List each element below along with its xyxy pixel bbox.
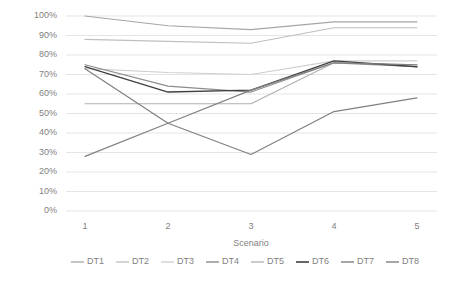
y-axis-tick-label: 10% — [39, 186, 57, 196]
gridlines — [66, 16, 437, 211]
x-axis-title: Scenario — [233, 238, 269, 248]
y-axis-tick-label: 90% — [39, 30, 57, 40]
chart-canvas: 0%10%20%30%40%50%60%70%80%90%100% 12345 … — [0, 0, 476, 282]
y-axis-tick-label: 60% — [39, 88, 57, 98]
series-line-dt5 — [85, 63, 417, 104]
y-axis-tick-label: 80% — [39, 49, 57, 59]
y-axis-tick-label: 70% — [39, 69, 57, 79]
legend-label-dt2: DT2 — [132, 256, 149, 266]
series-line-dt4 — [85, 63, 417, 92]
y-axis-tick-label: 40% — [39, 127, 57, 137]
legend-label-dt5: DT5 — [267, 256, 284, 266]
legend-label-dt4: DT4 — [222, 256, 239, 266]
x-axis-tick-label: 4 — [331, 221, 336, 231]
y-axis-tick-label: 100% — [34, 10, 57, 20]
x-axis-tick-label: 3 — [248, 221, 253, 231]
y-axis-tick-label: 20% — [39, 166, 57, 176]
legend-label-dt3: DT3 — [177, 256, 194, 266]
legend-label-dt8: DT8 — [402, 256, 419, 266]
line-chart: 0%10%20%30%40%50%60%70%80%90%100% 12345 … — [0, 0, 476, 282]
y-axis-tick-label: 0% — [44, 205, 57, 215]
y-axis-tick-labels: 0%10%20%30%40%50%60%70%80%90%100% — [34, 10, 57, 215]
x-axis-tick-label: 2 — [165, 221, 170, 231]
y-axis-tick-label: 50% — [39, 108, 57, 118]
legend-label-dt1: DT1 — [87, 256, 104, 266]
legend-label-dt6: DT6 — [312, 256, 329, 266]
y-axis-tick-label: 30% — [39, 147, 57, 157]
x-axis-tick-label: 5 — [414, 221, 419, 231]
chart-legend: DT1DT2DT3DT4DT5DT6DT7DT8 — [71, 256, 419, 266]
x-axis-tick-label: 1 — [82, 221, 87, 231]
series-line-dt8 — [85, 63, 417, 157]
series-line-dt6 — [85, 61, 417, 92]
legend-label-dt7: DT7 — [357, 256, 374, 266]
x-axis-tick-labels: 12345 — [82, 221, 419, 231]
series-lines — [85, 16, 417, 156]
